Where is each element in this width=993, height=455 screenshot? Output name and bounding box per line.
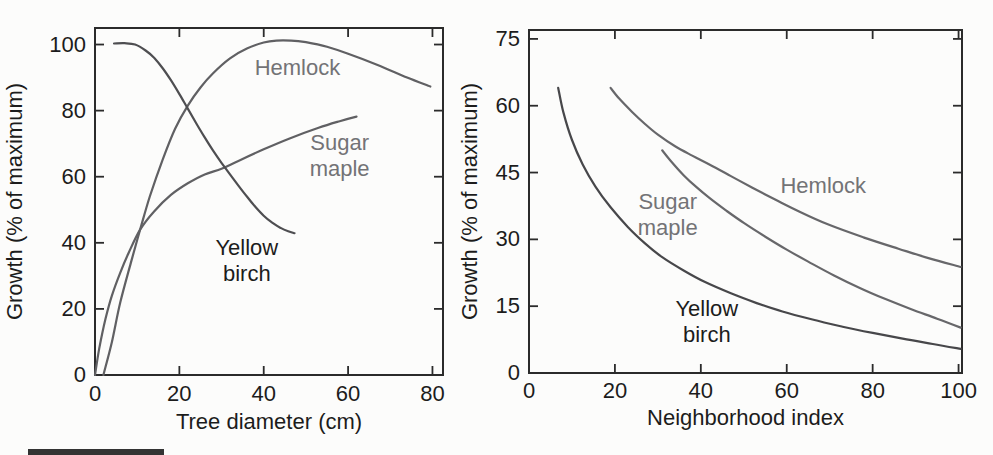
series-label-sugar-maple: maple: [638, 215, 698, 240]
x-tick-label: 80: [420, 381, 444, 406]
y-tick-label: 0: [508, 360, 520, 385]
series-label-yellow-birch: Yellow: [675, 296, 738, 321]
x-tick-label: 0: [89, 381, 101, 406]
series-label-hemlock: Hemlock: [780, 173, 867, 198]
x-tick-label: 60: [336, 381, 360, 406]
y-tick-label: 20: [62, 296, 86, 321]
y-tick-label: 15: [496, 293, 520, 318]
y-tick-label: 60: [496, 93, 520, 118]
series-hemlock: [103, 40, 430, 375]
series-label-hemlock: Hemlock: [255, 55, 342, 80]
y-tick-label: 40: [62, 230, 86, 255]
x-axis-label: Tree diameter (cm): [176, 409, 362, 434]
x-tick-label: 60: [774, 378, 798, 403]
x-tick-label: 80: [860, 378, 884, 403]
y-tick-label: 45: [496, 160, 520, 185]
x-tick-label: 20: [603, 378, 627, 403]
series-label-sugar-maple: Sugar: [310, 130, 369, 155]
figure-caption-bar: [28, 449, 164, 455]
chart-right: 02040608010001530456075Neighborhood inde…: [455, 0, 993, 455]
y-axis-label: Growth (% of maximum): [2, 83, 27, 320]
y-tick-label: 100: [49, 32, 86, 57]
x-tick-label: 100: [940, 378, 977, 403]
x-tick-label: 20: [167, 381, 191, 406]
y-tick-label: 30: [496, 226, 520, 251]
x-tick-label: 0: [523, 378, 535, 403]
plot-border: [529, 30, 962, 373]
y-tick-label: 80: [62, 98, 86, 123]
x-axis-label: Neighborhood index: [647, 405, 844, 430]
series-label-yellow-birch: birch: [683, 322, 731, 347]
y-tick-label: 60: [62, 164, 86, 189]
x-tick-label: 40: [689, 378, 713, 403]
series-label-yellow-birch: Yellow: [215, 235, 278, 260]
series-label-sugar-maple: Sugar: [638, 189, 697, 214]
series-yellow-birch: [558, 88, 961, 349]
y-tick-label: 0: [74, 362, 86, 387]
growth-figure: 020406080020406080100Tree diameter (cm)G…: [0, 0, 993, 455]
y-tick-label: 75: [496, 26, 520, 51]
series-label-sugar-maple: maple: [310, 156, 370, 181]
x-tick-label: 40: [251, 381, 275, 406]
series-label-yellow-birch: birch: [223, 261, 271, 286]
chart-left: 020406080020406080100Tree diameter (cm)G…: [0, 0, 455, 455]
y-axis-label: Growth (% of maximum): [457, 83, 482, 320]
